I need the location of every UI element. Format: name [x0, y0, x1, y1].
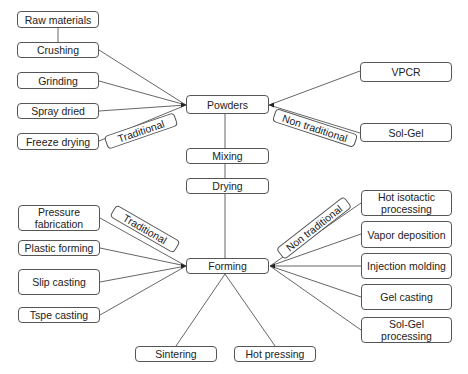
node-grinding: Grinding: [17, 72, 99, 89]
node-sintering: Sintering: [135, 346, 217, 362]
node-drying: Drying: [186, 178, 269, 194]
node-spray-dried: Spray dried: [17, 103, 99, 119]
node-freeze-drying: Freeze drying: [17, 133, 99, 150]
node-hot-pressing: Hot pressing: [234, 346, 316, 362]
node-tspe-casting: Tspe casting: [18, 307, 100, 323]
node-vapor-deposition: Vapor deposition: [361, 221, 452, 248]
node-crushing: Crushing: [17, 42, 99, 58]
node-injection-molding: Injection molding: [361, 253, 452, 279]
node-sol-gel-processing: Sol-Gel processing: [361, 317, 452, 343]
node-forming: Forming: [186, 258, 269, 274]
node-slip-casting: Slip casting: [18, 269, 100, 295]
node-raw-materials: Raw materials: [17, 11, 99, 28]
ceramic-processing-diagram: Raw materials Crushing Grinding Spray dr…: [0, 0, 468, 374]
node-gel-casting: Gel casting: [361, 284, 452, 310]
node-vpcr: VPCR: [360, 62, 452, 82]
node-hot-isotactic-processing: Hot isotactic processing: [361, 190, 452, 216]
node-powders: Powders: [186, 95, 269, 114]
node-mixing: Mixing: [186, 148, 269, 164]
node-sol-gel: Sol-Gel: [360, 123, 452, 142]
node-plastic-forming: Plastic forming: [18, 240, 100, 256]
node-pressure-fabrication: Pressure fabrication: [18, 205, 100, 231]
